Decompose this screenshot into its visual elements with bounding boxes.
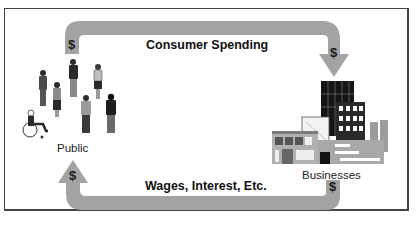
public-people-illustration [23,59,116,139]
person-icon [81,95,91,133]
person-icon [106,94,116,133]
person-icon [69,59,78,97]
public-label: Public [57,142,88,154]
dollar-icon-bottom-left: $ [69,168,76,183]
dollar-icon-bottom-right: $ [329,179,336,194]
dollar-icon-top-right: $ [330,45,337,60]
dollar-icon-top-left: $ [68,37,75,52]
person-icon [53,82,61,117]
person-icon [94,64,102,99]
wages-interest-label: Wages, Interest, Etc. [145,179,267,193]
wheelchair-person-icon [23,110,48,139]
person-icon [39,70,47,106]
consumer-spending-label: Consumer Spending [146,38,268,52]
businesses-label: Businesses [302,169,361,181]
businesses-buildings-illustration [272,81,388,164]
